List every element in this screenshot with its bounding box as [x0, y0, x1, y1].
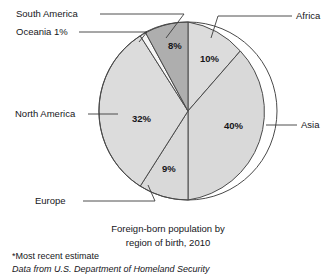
value-label-europe: 9%	[162, 163, 176, 174]
value-label-africa: 10%	[200, 53, 219, 64]
value-label-south-america: 8%	[168, 40, 182, 51]
chart-caption-line2: region of birth, 2010	[0, 236, 336, 249]
label-oceania: Oceania 1%	[16, 26, 68, 37]
label-south-america: South America	[16, 8, 78, 19]
footnote-estimate: *Most recent estimate	[12, 250, 99, 262]
label-north-america: North America	[15, 108, 75, 119]
value-label-north-america: 32%	[132, 113, 151, 124]
pie-chart-figure: South America Oceania 1% Africa Asia Nor…	[0, 0, 336, 278]
label-europe: Europe	[35, 195, 66, 206]
leader-line-africa	[211, 16, 292, 38]
label-asia: Asia	[301, 119, 319, 130]
footnote-source: Data from U.S. Department of Homeland Se…	[12, 263, 210, 275]
label-africa: Africa	[296, 10, 320, 21]
chart-caption-line1: Foreign-born population by	[0, 222, 336, 235]
value-label-asia: 40%	[224, 120, 243, 131]
